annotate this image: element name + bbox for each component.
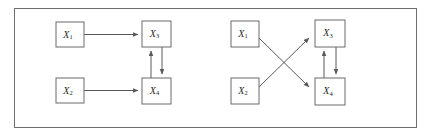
node-left-x1[interactable]: X1 — [56, 22, 84, 47]
diagram-canvas: X1 X2 X3 X4 — [0, 0, 432, 136]
figure-root: X1 X2 X3 X4 — [0, 0, 432, 136]
node-left-x4[interactable]: X4 — [142, 78, 171, 104]
node-right-x4[interactable]: X4 — [315, 78, 345, 105]
left-diagram: X1 X2 X3 X4 — [56, 21, 171, 104]
node-right-x1[interactable]: X1 — [231, 21, 259, 47]
node-right-x2[interactable]: X2 — [231, 78, 259, 104]
node-right-x3[interactable]: X3 — [315, 20, 345, 47]
node-left-x2[interactable]: X2 — [56, 78, 84, 103]
node-left-x3[interactable]: X3 — [142, 21, 171, 47]
right-diagram: X1 X2 X3 X4 — [231, 20, 345, 105]
